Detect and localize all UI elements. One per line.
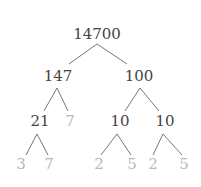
tree-edge (101, 134, 117, 155)
node-prime-5-a: 5 (127, 157, 137, 172)
factor-tree-diagram: 14700 147 100 21 7 10 10 3 7 2 5 2 5 (0, 0, 201, 187)
tree-edge (153, 134, 163, 155)
node-147: 147 (44, 69, 73, 84)
node-100: 100 (125, 69, 154, 84)
node-prime-5-b: 5 (179, 157, 189, 172)
tree-edge (26, 134, 37, 155)
node-14700: 14700 (73, 27, 121, 42)
tree-edge (140, 88, 159, 111)
tree-edge (117, 134, 131, 155)
tree-edge (57, 88, 68, 111)
tree-edge (69, 44, 97, 64)
node-10-left: 10 (110, 114, 129, 129)
node-prime-3: 3 (16, 157, 26, 172)
node-21: 21 (30, 114, 49, 129)
node-prime-2-b: 2 (148, 157, 158, 172)
tree-edge (163, 134, 182, 155)
tree-edge (97, 44, 127, 64)
tree-edge (37, 134, 48, 155)
node-prime-7: 7 (65, 114, 75, 129)
tree-edge (44, 88, 57, 111)
tree-edge (125, 88, 140, 111)
node-prime-7-leaf: 7 (44, 157, 54, 172)
node-prime-2-a: 2 (94, 157, 104, 172)
node-10-right: 10 (155, 114, 174, 129)
